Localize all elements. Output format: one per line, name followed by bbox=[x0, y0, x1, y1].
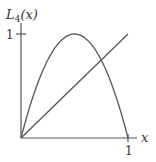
y-axis-label: L4(x) bbox=[5, 7, 38, 24]
plot-area bbox=[21, 34, 128, 138]
chart: L4(x) 1 1 x bbox=[0, 0, 156, 162]
x-tick-label-1: 1 bbox=[125, 144, 133, 158]
x-axis-label: x bbox=[141, 130, 149, 145]
y-tick-label-1: 1 bbox=[6, 28, 14, 42]
